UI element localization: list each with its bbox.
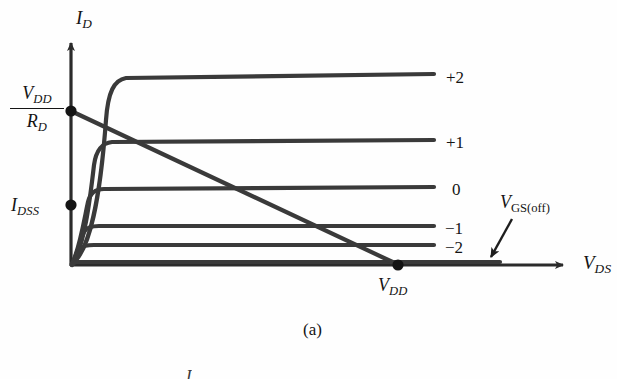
x-axis-label-var: V [583, 252, 595, 273]
curve-label-minus-1: −1 [445, 219, 463, 239]
vdd-axis-label-var: V [378, 275, 389, 295]
vgs-off-label: VGS(off) [500, 193, 550, 215]
numerator-sub: DD [33, 92, 52, 106]
vdd-over-rd-denominator: RD [8, 109, 66, 134]
numerator-var: V [22, 83, 33, 103]
vgs-off-pointer-arrow [491, 219, 512, 257]
curve-label-minus-2: −2 [445, 238, 463, 258]
vdd-axis-label: VDD [378, 276, 408, 298]
curve-plus-2 [72, 74, 434, 264]
y-axis-label-sub: D [82, 16, 92, 31]
denominator-sub: D [38, 120, 47, 134]
x-axis-label-sub: DS [595, 261, 612, 276]
figure-caption: (a) [303, 320, 322, 340]
idss-point [65, 199, 76, 210]
partial-next-figure-glyph: I [186, 366, 192, 379]
x-axis-label: VDS [583, 253, 611, 276]
vgs-off-label-sub: GS(off) [511, 201, 550, 215]
curve-label-zero: 0 [452, 180, 461, 200]
vdd-axis-label-sub: DD [389, 284, 408, 298]
vgs-off-label-var: V [500, 192, 511, 212]
curve-label-plus-1: +1 [446, 133, 464, 153]
vdd-over-rd-label: VDD RD [8, 84, 66, 133]
curve-label-plus-2: +2 [446, 68, 464, 88]
figure-container: ID VDS VDD RD IDSS VDD VGS(off) +2 +1 0 … [0, 0, 617, 379]
idss-label-sub: DSS [17, 204, 39, 218]
vdd-over-rd-numerator: VDD [8, 84, 66, 108]
vdd-point [392, 259, 403, 270]
characteristic-curves [72, 74, 500, 265]
vdd-over-rd-point [65, 105, 76, 116]
denominator-var: R [27, 111, 38, 131]
y-axis-label: ID [76, 8, 92, 31]
idss-label: IDSS [11, 196, 39, 218]
